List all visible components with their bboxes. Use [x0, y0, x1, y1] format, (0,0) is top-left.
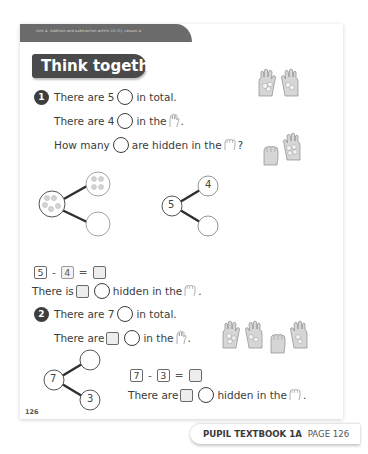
q2-answer-line: There are hidden in the . [128, 386, 306, 404]
q2-line-1: 2 There are 7 in total. [34, 305, 177, 323]
q1-text: How many [54, 139, 110, 151]
open-hand-with-counters-icon [279, 68, 301, 98]
q1-text: hidden in the [113, 285, 183, 297]
four-hands-illustration [220, 320, 310, 358]
counter-circle-icon [113, 137, 129, 153]
open-hand-with-counters-icon [243, 320, 265, 350]
q1-line-2: There are 4 in the . [54, 112, 184, 130]
open-hands-illustration [256, 68, 301, 98]
answer-box[interactable] [93, 266, 106, 279]
q1-line-1: 1 There are 5 in total. [34, 88, 177, 106]
minus-sign: - [52, 266, 56, 278]
answer-box[interactable] [189, 369, 202, 382]
fist-and-hand-illustration [262, 132, 303, 170]
equation-box-a: 7 [130, 369, 143, 382]
counter-circle-icon [117, 113, 133, 129]
answer-box[interactable] [76, 285, 89, 298]
closed-fist-icon [288, 388, 302, 403]
open-hand-icon [175, 330, 187, 347]
q2-text: There are 7 [54, 308, 114, 320]
closed-fist-icon [269, 328, 287, 358]
q1-text: . [198, 285, 201, 297]
textbook-caption: PUPIL TEXTBOOK 1A PAGE 126 [190, 424, 360, 444]
q2-text: There are [54, 332, 104, 344]
whole-value: 5 [168, 199, 174, 210]
q1-answer-line: There is hidden in the . [32, 282, 202, 300]
page-number: 126 [25, 408, 39, 416]
q1-text: in total. [136, 91, 176, 103]
q1-text: There are 4 [54, 115, 114, 127]
part-whole-model-numbers: 5 4 [160, 170, 230, 240]
counter-circle-icon [94, 283, 110, 299]
minus-sign: - [148, 369, 152, 381]
q2-text: in total. [136, 308, 176, 320]
textbook-page: Unit 4: Addition and subtraction within … [20, 24, 343, 419]
counter-circle-icon [117, 89, 133, 105]
equation-box-b: 3 [157, 369, 170, 382]
q1-text: in the [136, 115, 166, 127]
part-bottom-value: 3 [87, 393, 93, 404]
counter-circle-icon [117, 306, 133, 322]
open-hand-with-counters-icon [256, 68, 278, 98]
counter-circle-icon [124, 330, 140, 346]
whole-value: 7 [50, 373, 56, 384]
caption-book: PUPIL TEXTBOOK 1A [203, 429, 302, 439]
q2-text: in the [143, 332, 173, 344]
unit-banner-text: Unit 4: Addition and subtraction within … [36, 29, 141, 33]
closed-fist-icon [262, 140, 280, 170]
q2-text: hidden in the [217, 389, 287, 401]
question-number-1: 1 [34, 90, 49, 105]
question-number-2: 2 [34, 307, 49, 322]
caption-page: PAGE 126 [308, 429, 350, 439]
section-title: Think together [32, 54, 146, 78]
answer-box[interactable] [180, 389, 193, 402]
part-whole-model-q2: 7 3 [42, 346, 112, 416]
q1-text: ? [238, 139, 244, 151]
open-hand-with-counters-icon [288, 320, 310, 350]
q2-text: . [303, 389, 306, 401]
q2-equation: 7 - 3 = [128, 366, 204, 384]
open-hand-with-counters-icon [281, 132, 303, 162]
unit-banner: Unit 4: Addition and subtraction within … [20, 24, 192, 42]
q2-line-2: There are in the . [54, 329, 191, 347]
q2-text: . [188, 332, 191, 344]
part-whole-model-counters [32, 164, 122, 244]
q1-line-3: How many are hidden in the ? [54, 136, 243, 154]
equation-box-a: 5 [34, 266, 47, 279]
closed-fist-icon [223, 138, 237, 153]
counter-circle-icon [198, 387, 214, 403]
open-hand-with-counters-icon [220, 320, 242, 350]
q1-text: There is [32, 285, 74, 297]
equals-sign: = [175, 369, 184, 381]
q1-text: are hidden in the [132, 139, 222, 151]
q1-equation: 5 - 4 = [32, 263, 108, 281]
part-top-value: 4 [205, 179, 211, 190]
q1-text: . [181, 115, 184, 127]
q2-text: There are [128, 389, 178, 401]
closed-fist-icon [183, 284, 197, 299]
equation-box-b: 4 [61, 266, 74, 279]
equals-sign: = [79, 266, 88, 278]
open-hand-icon [168, 113, 180, 130]
q1-text: There are 5 [54, 91, 114, 103]
answer-box[interactable] [106, 332, 119, 345]
